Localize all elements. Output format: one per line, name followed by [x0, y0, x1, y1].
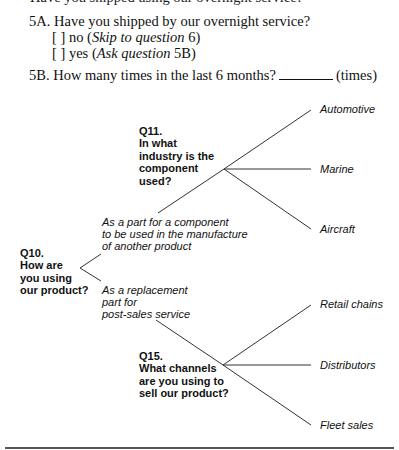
answer-aircraft[interactable]: Aircraft — [320, 223, 355, 235]
option-line: of another product — [102, 240, 248, 252]
q15-line: sell our product? — [139, 387, 229, 399]
q11-line: component — [139, 162, 214, 174]
q15-line: What channels — [139, 362, 229, 374]
q10-option-replacement-part[interactable]: As a replacement part for post-sales ser… — [102, 284, 190, 321]
q11-line: industry is the — [139, 150, 214, 162]
q15-branch-retail — [223, 305, 311, 365]
answer-retail-chains[interactable]: Retail chains — [320, 298, 383, 310]
answer-fleet-sales[interactable]: Fleet sales — [320, 419, 373, 431]
q10-line: Q10. — [20, 247, 88, 259]
option-line: part for — [102, 296, 190, 308]
q11-line: Q11. — [139, 125, 214, 137]
q11-line: used? — [139, 175, 214, 187]
q15-line: are you using to — [139, 375, 229, 387]
q15-branch-fleet — [223, 365, 311, 425]
q10-line: How are — [20, 259, 88, 271]
q15-line: Q15. — [139, 350, 229, 362]
answer-distributors[interactable]: Distributors — [320, 359, 376, 371]
bottom-rule — [5, 447, 394, 449]
question-q11: Q11. In what industry is the component u… — [139, 125, 214, 187]
option-line: As a replacement — [102, 284, 190, 296]
option-line: As a part for a component — [102, 216, 248, 228]
question-q15: Q15. What channels are you using to sell… — [139, 350, 229, 400]
q10-option-component-part[interactable]: As a part for a component to be used in … — [102, 216, 248, 253]
q10-line: our product? — [20, 284, 88, 296]
answer-automotive[interactable]: Automotive — [320, 103, 375, 115]
q11-line: In what — [139, 137, 214, 149]
answer-marine[interactable]: Marine — [320, 163, 354, 175]
question-q10: Q10. How are you using our product? — [20, 247, 88, 297]
option-line: to be used in the manufacture — [102, 228, 248, 240]
q10-line: you using — [20, 272, 88, 284]
q11-branch-automotive — [224, 110, 311, 169]
option-line: post-sales service — [102, 308, 190, 320]
